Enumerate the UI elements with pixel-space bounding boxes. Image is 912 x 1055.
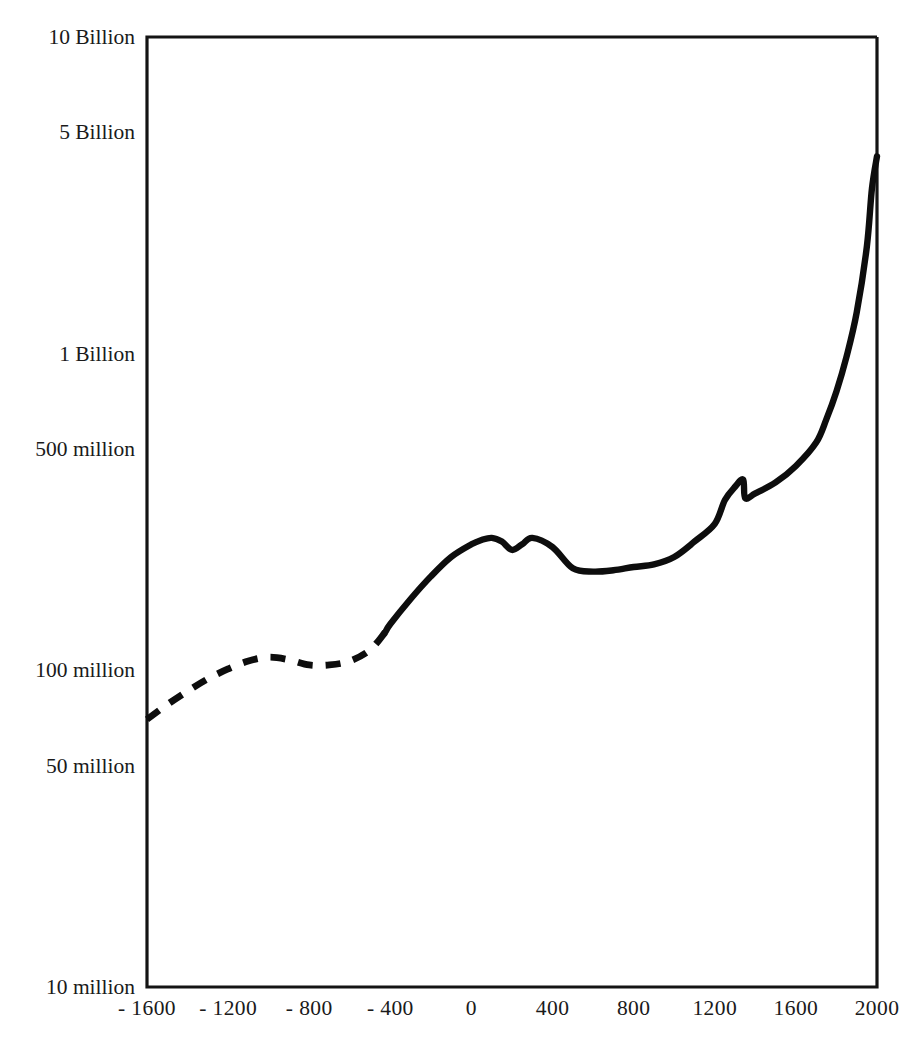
x-tick-label: 400 bbox=[536, 996, 569, 1020]
x-tick-label: 1600 bbox=[774, 996, 819, 1020]
chart-background bbox=[0, 0, 912, 1055]
population-line-chart: 10 Billion5 Billion1 Billion500 million1… bbox=[0, 0, 912, 1055]
y-tick-label: 1 Billion bbox=[59, 342, 135, 366]
y-tick-label: 500 million bbox=[35, 437, 135, 461]
y-tick-label: 10 Billion bbox=[48, 25, 135, 49]
y-tick-label: 50 million bbox=[46, 754, 135, 778]
x-tick-label: 2000 bbox=[855, 996, 900, 1020]
x-tick-label: 800 bbox=[617, 996, 650, 1020]
x-tick-label: - 1600 bbox=[118, 996, 176, 1020]
x-tick-label: - 1200 bbox=[199, 996, 257, 1020]
y-tick-label: 100 million bbox=[35, 658, 135, 682]
x-tick-label: 0 bbox=[466, 996, 477, 1020]
chart-container: 10 Billion5 Billion1 Billion500 million1… bbox=[0, 0, 912, 1055]
y-tick-label: 5 Billion bbox=[59, 120, 135, 144]
x-tick-label: - 800 bbox=[286, 996, 333, 1020]
x-tick-label: 1200 bbox=[692, 996, 737, 1020]
x-tick-label: - 400 bbox=[367, 996, 414, 1020]
